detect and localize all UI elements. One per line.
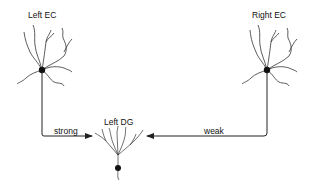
left-ec-neuron bbox=[17, 25, 72, 86]
left-dg-soma bbox=[115, 165, 121, 171]
right-ec-neuron bbox=[242, 25, 297, 86]
left-dg-neuron bbox=[95, 126, 143, 180]
right-ec-label: Right EC bbox=[252, 10, 286, 20]
left-dg-label: Left DG bbox=[104, 117, 133, 127]
left-ec-label: Left EC bbox=[28, 10, 56, 20]
strong-edge-label: strong bbox=[54, 126, 78, 136]
weak-edge-label: weak bbox=[204, 126, 224, 136]
diagram-canvas bbox=[0, 0, 312, 191]
